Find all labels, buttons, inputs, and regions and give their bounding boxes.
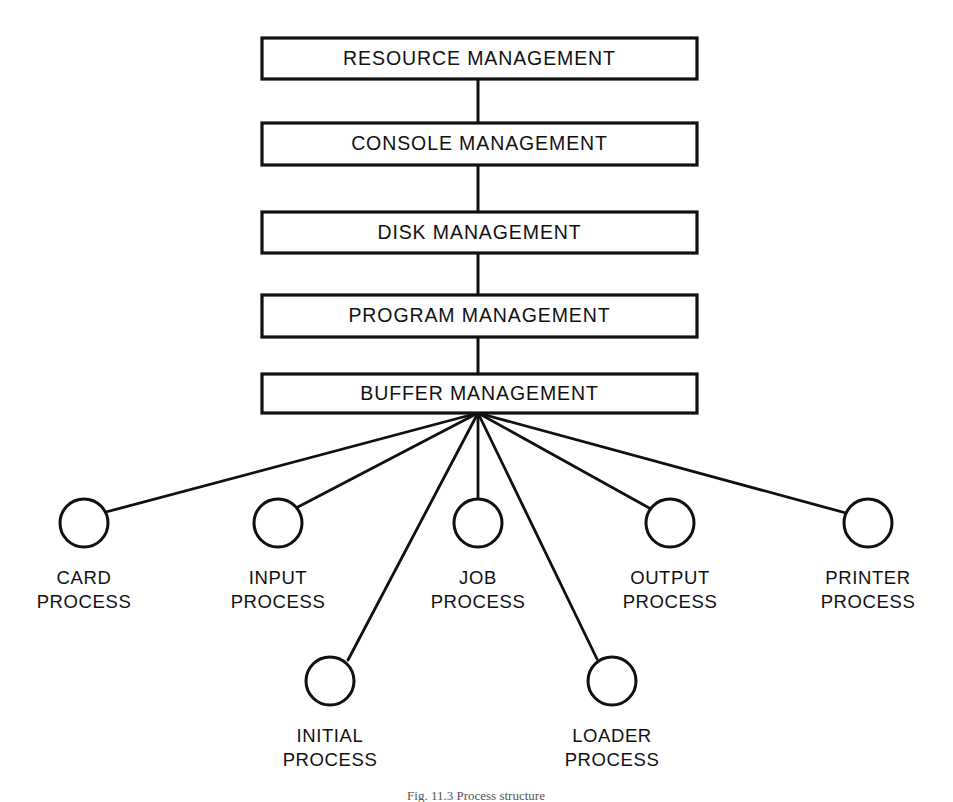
circle-input-process (254, 499, 302, 547)
label-initial-process-line2: PROCESS (283, 749, 378, 770)
label-card-process-line2: PROCESS (37, 591, 132, 612)
process-nodes: CARD PROCESS INPUT PROCESS INITIAL PROCE… (37, 499, 916, 770)
label-printer-process-line2: PROCESS (821, 591, 916, 612)
circle-output-process (646, 499, 694, 547)
node-input-process[interactable]: INPUT PROCESS (231, 499, 326, 612)
box-buffer-management[interactable]: BUFFER MANAGEMENT (262, 374, 697, 413)
box-resource-management[interactable]: RESOURCE MANAGEMENT (262, 38, 697, 79)
node-loader-process[interactable]: LOADER PROCESS (565, 657, 660, 770)
node-job-process[interactable]: JOB PROCESS (431, 499, 526, 612)
label-job-process-line2: PROCESS (431, 591, 526, 612)
label-output-process-line1: OUTPUT (630, 567, 710, 588)
label-input-process-line1: INPUT (249, 567, 308, 588)
box-label-console-management: CONSOLE MANAGEMENT (351, 132, 608, 154)
label-card-process-line1: CARD (57, 567, 112, 588)
box-label-disk-management: DISK MANAGEMENT (377, 221, 581, 243)
box-label-program-management: PROGRAM MANAGEMENT (348, 304, 610, 326)
fan-line-input-process (296, 413, 478, 508)
box-program-management[interactable]: PROGRAM MANAGEMENT (262, 295, 697, 337)
box-disk-management[interactable]: DISK MANAGEMENT (262, 212, 697, 253)
label-loader-process-line1: LOADER (572, 725, 652, 746)
node-card-process[interactable]: CARD PROCESS (37, 499, 132, 612)
fan-line-output-process (478, 413, 651, 509)
box-label-resource-management: RESOURCE MANAGEMENT (343, 47, 616, 69)
circle-card-process (60, 499, 108, 547)
box-console-management[interactable]: CONSOLE MANAGEMENT (262, 123, 697, 165)
label-input-process-line2: PROCESS (231, 591, 326, 612)
circle-job-process (454, 499, 502, 547)
figure-caption: Fig. 11.3 Process structure (407, 788, 545, 802)
box-label-buffer-management: BUFFER MANAGEMENT (360, 382, 598, 404)
fan-line-card-process (106, 413, 478, 512)
fan-line-printer-process (478, 413, 846, 513)
label-loader-process-line2: PROCESS (565, 749, 660, 770)
node-printer-process[interactable]: PRINTER PROCESS (821, 499, 916, 612)
label-printer-process-line1: PRINTER (825, 567, 910, 588)
node-output-process[interactable]: OUTPUT PROCESS (623, 499, 718, 612)
label-job-process-line1: JOB (459, 567, 497, 588)
label-initial-process-line1: INITIAL (297, 725, 364, 746)
diagram-canvas: RESOURCE MANAGEMENT CONSOLE MANAGEMENT D… (0, 0, 953, 802)
process-hierarchy-diagram: RESOURCE MANAGEMENT CONSOLE MANAGEMENT D… (0, 0, 953, 802)
label-output-process-line2: PROCESS (623, 591, 718, 612)
circle-initial-process (306, 657, 354, 705)
node-initial-process[interactable]: INITIAL PROCESS (283, 657, 378, 770)
circle-loader-process (588, 657, 636, 705)
circle-printer-process (844, 499, 892, 547)
